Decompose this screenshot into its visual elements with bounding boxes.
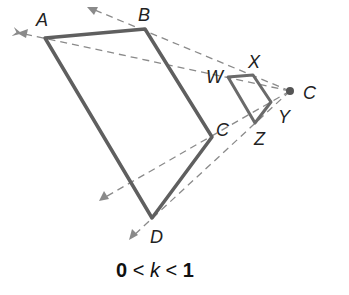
label-D: D — [150, 227, 163, 247]
quadrilateral-ABCD — [45, 29, 212, 218]
caption-lower: 0 — [116, 259, 127, 281]
label-A: A — [35, 10, 48, 30]
caption-op2: < — [166, 259, 183, 281]
caption-upper: 1 — [183, 259, 194, 281]
label-B: B — [138, 5, 150, 25]
arrowhead-A-icon — [17, 29, 28, 38]
label-X: X — [247, 52, 261, 72]
caption-op1: < — [133, 259, 150, 281]
label-Z: Z — [253, 129, 266, 149]
center-point — [286, 87, 294, 95]
label-center: C — [303, 83, 317, 103]
dilation-diagram: A B C D W X Y Z C 0 < k < 1 — [0, 0, 349, 295]
ray-arrowheads — [17, 7, 138, 240]
scale-factor-caption: 0 < k < 1 — [116, 259, 194, 281]
arrowhead-D-icon — [129, 229, 138, 240]
caption-var: k — [150, 259, 161, 281]
label-Y: Y — [278, 107, 292, 127]
label-W: W — [206, 67, 225, 87]
ray-to-B — [90, 8, 290, 91]
label-C-vertex: C — [216, 120, 230, 140]
